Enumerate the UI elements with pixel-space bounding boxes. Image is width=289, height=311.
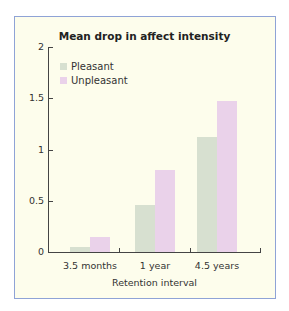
y-tick <box>48 47 53 48</box>
x-axis-title: Retention interval <box>0 277 289 288</box>
x-tick <box>190 248 191 253</box>
x-tick <box>260 248 261 253</box>
bar-pleasant <box>135 205 155 252</box>
legend-label-unpleasant: Unpleasant <box>71 75 128 86</box>
x-tick-label: 3.5 months <box>55 260 125 271</box>
x-axis <box>48 252 261 253</box>
unpleasant-swatch <box>60 77 67 84</box>
x-tick <box>119 248 120 253</box>
y-tick-label: 0 <box>14 246 44 257</box>
y-tick-label: 2 <box>14 41 44 52</box>
bar-unpleasant <box>217 101 237 252</box>
bar-pleasant <box>197 137 217 252</box>
y-tick <box>48 98 53 99</box>
y-tick <box>48 201 53 202</box>
legend-item-unpleasant: Unpleasant <box>60 74 128 87</box>
x-tick-label: 1 year <box>120 260 190 271</box>
legend-item-pleasant: Pleasant <box>60 60 128 73</box>
pleasant-swatch <box>60 63 67 70</box>
y-tick-label: 0.5 <box>14 195 44 206</box>
y-tick-label: 1 <box>14 144 44 155</box>
legend: Pleasant Unpleasant <box>60 60 128 88</box>
bar-unpleasant <box>90 237 110 252</box>
legend-label-pleasant: Pleasant <box>71 61 114 72</box>
bar-pleasant <box>70 247 90 252</box>
x-tick-label: 4.5 years <box>182 260 252 271</box>
y-tick-label: 1.5 <box>14 92 44 103</box>
y-tick <box>48 150 53 151</box>
bar-unpleasant <box>155 170 175 252</box>
